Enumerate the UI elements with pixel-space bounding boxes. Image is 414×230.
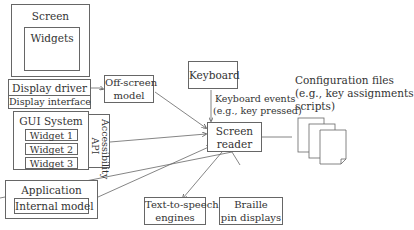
- display-driver-label: Display driver: [9, 82, 90, 94]
- keyboard-box: Keyboard: [188, 61, 238, 89]
- gui-system-label: GUI System: [14, 115, 88, 127]
- config-files-example-2: scripts): [295, 100, 335, 112]
- internal-model-box: Internal model: [14, 198, 89, 214]
- screen-label: Screen: [12, 10, 89, 22]
- config-files-example: (e.g., key assignments: [295, 87, 414, 99]
- braille-displays-box: Braille pin displays: [219, 197, 283, 225]
- gui-system-box: GUI System Widget 1 Widget 2 Widget 3: [13, 111, 89, 170]
- application-label: Application: [6, 184, 97, 196]
- accessibility-api-box: Accessibility API: [88, 114, 110, 168]
- keyboard-label: Keyboard: [189, 69, 237, 81]
- off-screen-model-box: Off-screen model: [104, 75, 154, 103]
- widget-1: Widget 1: [25, 129, 78, 141]
- screen-box: Screen Widgets: [11, 4, 90, 77]
- display-driver-box: Display driver Display interface: [8, 79, 91, 109]
- widget-3: Widget 3: [25, 157, 78, 169]
- internal-model-label: Internal model: [15, 200, 88, 212]
- accessibility-api-label: Accessibility API: [90, 119, 110, 173]
- screen-reader-box: Screen reader: [207, 122, 262, 152]
- application-box: Application Internal model: [5, 180, 98, 219]
- config-files-label: Configuration files: [295, 74, 394, 86]
- widgets-box: Widgets: [24, 27, 80, 71]
- tts-engines-box: Text-to-speech engines: [144, 197, 206, 225]
- widgets-label: Widgets: [25, 32, 79, 44]
- display-interface-label: Display interface: [9, 96, 90, 108]
- keyboard-events-label: Keyboard events: [215, 93, 295, 105]
- keyboard-events-example: (e.g., key pressed): [213, 105, 302, 117]
- widget-2: Widget 2: [25, 143, 78, 155]
